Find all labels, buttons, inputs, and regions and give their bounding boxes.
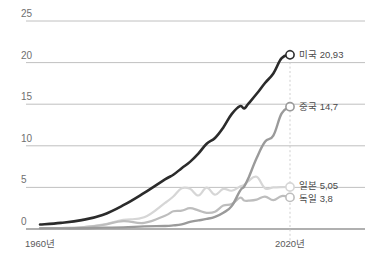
gdp-line-chart: 0510152025 미국 20,93중국 14,7일본 5,05독일 3,8 … — [0, 0, 365, 266]
series-line-1 — [40, 107, 290, 229]
endpoint-marker-1 — [286, 103, 294, 111]
series-label-2: 일본 5,05 — [299, 180, 338, 191]
series-label-0: 미국 20,93 — [299, 49, 343, 60]
series-label-1: 중국 14,7 — [299, 101, 338, 112]
y-axis-tick-labels: 0510152025 — [21, 8, 33, 227]
x-tick-label: 1960년 — [25, 238, 55, 249]
series-line-3 — [40, 196, 290, 228]
endpoint-marker-2 — [286, 183, 294, 191]
endpoint-markers — [286, 51, 294, 202]
series-label-3: 독일 3,8 — [299, 193, 333, 204]
series-line-0 — [40, 55, 290, 225]
series-end-labels: 미국 20,93중국 14,7일본 5,05독일 3,8 — [299, 49, 343, 204]
y-tick-label: 25 — [21, 8, 33, 19]
x-tick-label: 2020년 — [275, 238, 305, 249]
y-tick-label: 10 — [21, 133, 33, 144]
y-tick-label: 15 — [21, 91, 33, 102]
endpoint-marker-0 — [286, 51, 294, 59]
chart-canvas: 0510152025 미국 20,93중국 14,7일본 5,05독일 3,8 … — [0, 0, 365, 266]
y-tick-label: 5 — [21, 174, 27, 185]
y-tick-label: 20 — [21, 50, 33, 61]
data-series-lines — [40, 55, 290, 229]
y-tick-label: 0 — [21, 216, 27, 227]
endpoint-marker-3 — [286, 193, 294, 201]
x-axis-tick-labels: 1960년2020년 — [25, 238, 305, 249]
